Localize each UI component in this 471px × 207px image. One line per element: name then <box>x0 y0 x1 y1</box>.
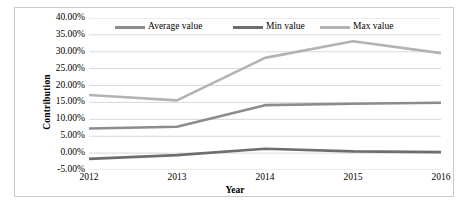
chart-legend: Average valueMin valueMax value <box>115 21 415 33</box>
y-tick-label: 15.00% <box>56 98 85 108</box>
legend-item[interactable]: Average value <box>115 21 202 33</box>
series-line <box>89 41 441 100</box>
x-tick-label: 2012 <box>80 173 99 183</box>
y-tick-label: 40.00% <box>56 13 85 23</box>
series-line <box>89 103 441 129</box>
y-axis-tick-labels: 40.00%35.00%30.00%25.00%20.00%15.00%10.0… <box>33 18 85 170</box>
legend-label: Average value <box>148 22 202 32</box>
series-line <box>89 149 441 159</box>
y-tick-label: 0.00% <box>60 148 85 158</box>
y-tick-label: 10.00% <box>56 115 85 125</box>
chart-plot-area: Contribution 40.00%35.00%30.00%25.00%20.… <box>15 8 453 196</box>
chart-container: Contribution 40.00%35.00%30.00%25.00%20.… <box>14 7 454 197</box>
y-tick-label: 25.00% <box>56 64 85 74</box>
chart-series-lines <box>89 41 441 159</box>
legend-swatch <box>233 26 263 29</box>
legend-swatch <box>320 26 350 29</box>
chart-svg <box>89 18 441 170</box>
legend-item[interactable]: Min value <box>233 21 305 33</box>
x-tick-label: 2015 <box>344 173 363 183</box>
y-tick-label: 20.00% <box>56 81 85 91</box>
x-tick-label: 2016 <box>432 173 451 183</box>
legend-item[interactable]: Max value <box>320 21 393 33</box>
x-axis-title: Year <box>15 185 455 195</box>
legend-label: Max value <box>353 22 393 32</box>
x-tick-label: 2014 <box>256 173 275 183</box>
legend-swatch <box>115 26 145 29</box>
y-tick-label: 35.00% <box>56 30 85 40</box>
y-tick-label: 30.00% <box>56 47 85 57</box>
chart-gridlines <box>89 18 441 170</box>
y-tick-label: 5.00% <box>60 131 85 141</box>
x-tick-label: 2013 <box>168 173 187 183</box>
legend-label: Min value <box>266 22 305 32</box>
